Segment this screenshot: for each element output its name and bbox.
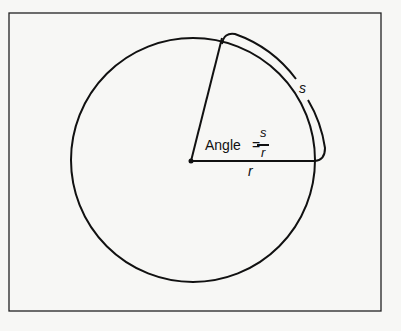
center-point (189, 159, 194, 164)
radius-label: r (248, 163, 253, 179)
fraction-denominator: r (261, 145, 265, 160)
angle-label: Angle (205, 137, 241, 153)
angle-diagram (0, 0, 401, 331)
fraction-numerator: s (260, 125, 267, 140)
arc-label: s (299, 80, 306, 96)
